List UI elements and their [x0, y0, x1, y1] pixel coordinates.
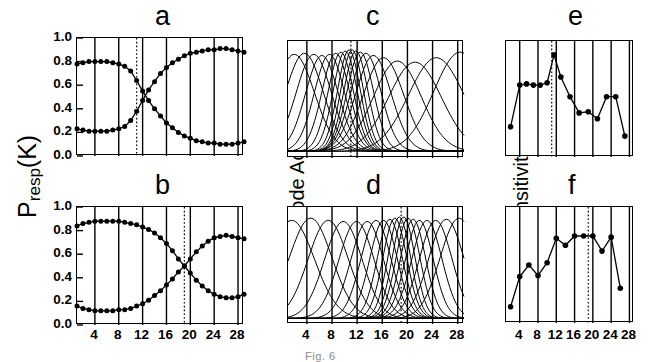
xtick-label: 16	[374, 327, 389, 343]
yticks-panel-b: 1.00.80.60.40.20.0	[38, 206, 72, 324]
panel-b-plot	[77, 207, 244, 325]
panel-d-plot	[288, 207, 464, 324]
panel-e-frame	[505, 40, 633, 156]
panel-f-frame	[505, 206, 633, 322]
panel-letter-f: f	[568, 172, 576, 199]
ytick-label: 1.0	[53, 30, 72, 44]
ytick-label: 0.6	[53, 77, 72, 91]
xtick-label: 12	[134, 327, 149, 343]
figure-root: Presp(K) Detector Node Activation aj Sen…	[0, 0, 649, 362]
xtick-label: 28	[230, 327, 245, 343]
xticks-panel-d: 481216202428	[287, 327, 463, 343]
xtick-label: 16	[566, 327, 581, 343]
panel-a-plot	[77, 38, 244, 156]
xtick-label: 20	[399, 327, 414, 343]
panel-c-plot	[288, 41, 464, 158]
xtick-label: 8	[533, 327, 541, 343]
xtick-label: 8	[327, 327, 335, 343]
panel-letter-a: a	[155, 3, 170, 30]
xticks-panel-b: 481216202428	[76, 327, 243, 343]
yaxis-title-presp-main: P	[13, 201, 41, 218]
figure-caption: Fig. 6	[305, 350, 336, 362]
panel-a-frame	[76, 37, 243, 155]
xtick-label: 20	[584, 327, 599, 343]
ytick-label: 0.2	[53, 293, 72, 307]
panel-f-plot	[506, 207, 634, 323]
yaxis-title-presp-tail: (K)	[13, 135, 41, 168]
xtick-label: 24	[603, 327, 618, 343]
xtick-label: 4	[302, 327, 310, 343]
ytick-label: 0.6	[53, 246, 72, 260]
ytick-label: 0.4	[53, 270, 72, 284]
panel-letter-c: c	[366, 3, 380, 30]
xticks-panel-f: 481216202428	[505, 327, 633, 343]
panel-letter-d: d	[366, 172, 381, 199]
xtick-label: 12	[548, 327, 563, 343]
panel-e-plot	[506, 41, 634, 157]
xtick-label: 24	[424, 327, 439, 343]
xtick-label: 16	[158, 327, 173, 343]
panel-letter-b: b	[155, 172, 170, 199]
panel-d-frame	[287, 206, 463, 323]
xtick-label: 28	[621, 327, 636, 343]
panel-b-frame	[76, 206, 243, 324]
xtick-label: 20	[182, 327, 197, 343]
xtick-label: 24	[206, 327, 221, 343]
panel-c-frame	[287, 40, 463, 157]
ytick-label: 0.2	[53, 124, 72, 138]
xtick-label: 28	[449, 327, 464, 343]
yaxis-title-presp-sub: resp	[25, 168, 44, 201]
ytick-label: 0.4	[53, 101, 72, 115]
panel-letter-e: e	[568, 3, 583, 30]
ytick-label: 0.0	[53, 148, 72, 162]
ytick-label: 0.0	[53, 317, 72, 331]
ytick-label: 1.0	[53, 199, 72, 213]
xtick-label: 12	[349, 327, 364, 343]
yticks-panel-a: 1.00.80.60.40.20.0	[38, 37, 72, 155]
ytick-label: 0.8	[53, 54, 72, 68]
xtick-label: 4	[515, 327, 523, 343]
xtick-label: 4	[90, 327, 98, 343]
xtick-label: 8	[114, 327, 122, 343]
ytick-label: 0.8	[53, 223, 72, 237]
